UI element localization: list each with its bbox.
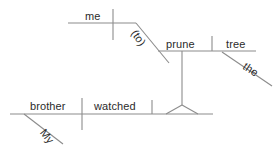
diagram-line-tripod-right <box>182 105 198 114</box>
label-me: me <box>85 10 100 22</box>
label-watched: watched <box>94 100 136 112</box>
sentence-diagram-canvas: me (to) prune tree the brother My watche… <box>0 0 278 154</box>
label-brother: brother <box>30 100 66 112</box>
label-tree: tree <box>226 38 245 50</box>
diagram-line-tripod-left <box>166 105 182 114</box>
label-prune: prune <box>166 38 195 50</box>
